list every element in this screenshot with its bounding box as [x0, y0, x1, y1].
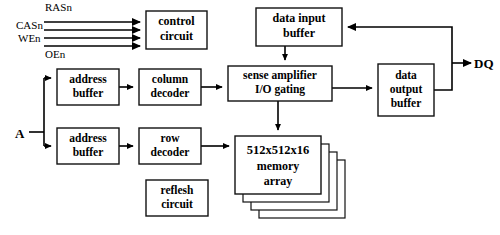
diagram-canvas: control circuit data input buffer addres…: [0, 0, 500, 235]
signal-label-oen: OEn: [45, 48, 66, 60]
sense-amplifier-label-line1: sense amplifier: [243, 69, 317, 82]
control-circuit-label-line1: control: [158, 14, 195, 28]
row-decoder-label-line2: decoder: [151, 146, 190, 158]
memory-array-label-line3: array: [264, 174, 293, 188]
dq-bus-label: DQ: [474, 56, 494, 71]
block-address-buffer-row[interactable]: address buffer: [57, 128, 119, 164]
memory-array-label-line2: memory: [257, 159, 300, 173]
column-decoder-label-line2: decoder: [151, 87, 190, 99]
dram-block-diagram: control circuit data input buffer addres…: [0, 0, 500, 235]
sense-amplifier-label-line2: I/O gating: [255, 83, 305, 96]
control-circuit-label-line2: circuit: [160, 29, 193, 43]
block-sense-amplifier[interactable]: sense amplifier I/O gating: [228, 66, 332, 101]
block-address-buffer-column[interactable]: address buffer: [57, 69, 119, 105]
data-input-buffer-label-line2: buffer: [283, 26, 316, 40]
data-output-buffer-label-line2: output: [390, 83, 423, 96]
block-memory-array[interactable]: 512x512x16 memory array: [235, 136, 321, 194]
address-buffer-row-label-line1: address: [69, 132, 107, 144]
block-row-decoder[interactable]: row decoder: [139, 128, 201, 164]
reflesh-circuit-label-line2: circuit: [161, 198, 193, 210]
row-decoder-label-line1: row: [161, 132, 181, 144]
data-input-buffer-label-line1: data input: [272, 11, 325, 25]
data-output-buffer-label-line3: buffer: [391, 97, 422, 109]
signal-label-wen: WEn: [18, 32, 41, 44]
address-bus-wires: [29, 78, 51, 146]
block-control-circuit[interactable]: control circuit: [146, 11, 207, 49]
address-buffer-column-label-line1: address: [69, 73, 107, 85]
wire-dq-to-datainbuf: [348, 27, 452, 63]
block-data-input-buffer[interactable]: data input buffer: [256, 8, 342, 46]
block-column-decoder[interactable]: column decoder: [139, 69, 201, 105]
reflesh-circuit-label-line1: reflesh: [160, 184, 194, 196]
signal-label-casn: CASn: [16, 19, 43, 31]
data-output-buffer-label-line1: data: [395, 69, 417, 81]
address-buffer-column-label-line2: buffer: [73, 87, 104, 99]
address-input-label: A: [15, 126, 25, 141]
control-signal-wires: [44, 22, 140, 46]
memory-array-label-line1: 512x512x16: [247, 143, 310, 157]
block-reflesh-circuit[interactable]: reflesh circuit: [146, 180, 208, 216]
column-decoder-label-line1: column: [152, 73, 189, 85]
wire-dataoutbuf-to-dq: [434, 63, 452, 90]
signal-label-rasn: RASn: [45, 1, 72, 13]
address-buffer-row-label-line2: buffer: [73, 146, 104, 158]
block-data-output-buffer[interactable]: data output buffer: [378, 64, 434, 116]
